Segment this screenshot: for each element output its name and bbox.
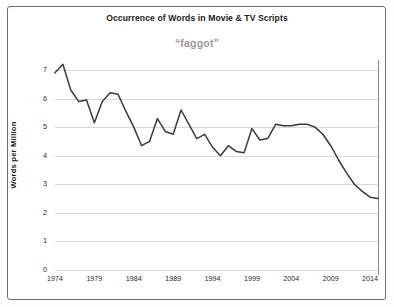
x-tick-label: 2009	[311, 274, 351, 283]
chart-figure: Occurrence of Words in Movie & TV Script…	[0, 0, 394, 307]
x-tick-label: 1974	[35, 274, 75, 283]
x-tick-label: 1979	[74, 274, 114, 283]
y-tick-label: 6	[23, 94, 47, 103]
x-tick-label: 2014	[350, 274, 390, 283]
x-tick-label: 1999	[232, 274, 272, 283]
y-tick-label: 0	[23, 265, 47, 274]
y-tick-label: 2	[23, 208, 47, 217]
series-faggot	[55, 70, 378, 270]
y-tick-label: 7	[23, 65, 47, 74]
x-tick-label: 1989	[153, 274, 193, 283]
right-axis-line	[378, 60, 379, 275]
x-tick-label: 1994	[193, 274, 233, 283]
x-tick-label: 1984	[114, 274, 154, 283]
y-tick-label: 3	[23, 179, 47, 188]
y-tick-label: 5	[23, 122, 47, 131]
chart-title: Occurrence of Words in Movie & TV Script…	[0, 13, 394, 23]
y-axis-label: Words per Million	[9, 100, 18, 210]
plot-area	[55, 70, 378, 270]
y-tick-label: 4	[23, 151, 47, 160]
chart-subtitle: “faggot”	[0, 37, 394, 49]
gridline	[55, 270, 378, 271]
y-tick-label: 1	[23, 236, 47, 245]
x-tick-label: 2004	[271, 274, 311, 283]
